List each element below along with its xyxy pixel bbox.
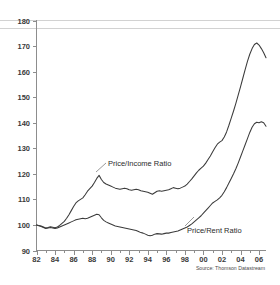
y-tick-label: 160 (17, 68, 30, 77)
y-tick-label: 140 (17, 119, 30, 128)
x-tick-label: 92 (125, 255, 133, 264)
y-tick-label: 110 (18, 195, 30, 204)
series-line-price-income (37, 43, 267, 228)
y-tick-label: 130 (17, 144, 30, 153)
x-tick-label: 06 (255, 255, 263, 264)
y-tick-label: 170 (17, 42, 30, 51)
x-tick-label: 86 (69, 255, 77, 264)
x-tick-label: 84 (51, 255, 60, 264)
x-tick-label: 94 (144, 255, 153, 264)
y-tick-label: 180 (17, 17, 30, 26)
x-tick-label: 02 (218, 255, 226, 264)
y-axis-ticks (33, 22, 37, 252)
price-rent-leader-line (185, 217, 194, 226)
x-tick-label: 96 (162, 255, 170, 264)
y-tick-label: 100 (17, 221, 30, 230)
y-axis-labels: 90100110120130140150160170180 (17, 17, 30, 256)
chart-container: 90100110120130140150160170180 8284868890… (0, 0, 280, 285)
y-tick-label: 120 (17, 170, 30, 179)
x-tick-label: 90 (107, 255, 115, 264)
x-tick-label: 00 (199, 255, 207, 264)
data-series-group (37, 43, 267, 236)
series-line-price-rent (37, 122, 267, 236)
y-tick-label: 90 (22, 247, 30, 256)
chart-canvas: 90100110120130140150160170180 8284868890… (0, 0, 280, 285)
price-income-leader-line (96, 163, 106, 172)
x-axis-ticks (38, 251, 260, 255)
x-axis-labels: 82848688909294969800020406 (32, 255, 263, 264)
price-rent-series-label: Price/Rent Ratio (187, 226, 242, 235)
x-tick-label: 04 (236, 255, 245, 264)
x-tick-label: 82 (32, 255, 40, 264)
x-tick-label: 98 (181, 255, 189, 264)
price-income-series-label: Price/Income Ratio (108, 159, 171, 168)
source-attribution: Source: Thomson Datastream (196, 265, 265, 271)
x-tick-label: 88 (88, 255, 96, 264)
y-tick-label: 150 (17, 93, 30, 102)
